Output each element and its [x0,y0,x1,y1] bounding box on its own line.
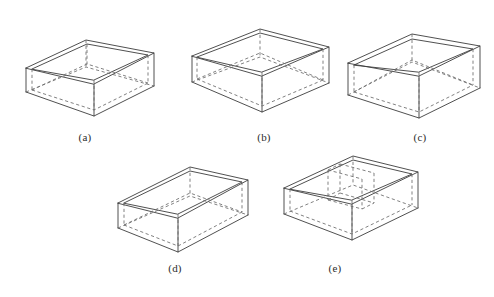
figure-label-c: (c) [400,131,440,143]
box-a-outer-rim [26,40,154,84]
box-c-outer-rim [348,34,480,76]
box-e-divider1-depth-top [328,170,362,179]
box-e-bottom-front [284,208,418,240]
figure-label-a: (a) [65,131,105,143]
figure-label-b: (b) [244,131,284,143]
box-diagrams-svg [0,0,494,297]
box-c-inner-floor-back [354,60,473,92]
figure-label-d: (d) [155,262,195,274]
box-e-divider1-far-bottom [362,203,374,209]
box-e-divider1-depth-top2 [340,164,374,173]
box-c-bottom-front [348,88,480,118]
figure-label-e: (e) [315,262,355,274]
box-a-inner-rim [32,44,148,80]
box-b-outer-rim [192,29,329,76]
box-a-inner-floor-back [32,64,148,90]
box-figure-c [348,34,480,118]
figure-panel: (a) (b) (c) (d) (e) [0,0,494,297]
box-figure-a [26,40,154,116]
box-c-inner-rim [354,39,473,72]
box-figure-d [118,167,248,252]
box-figure-b [192,29,329,112]
box-a-bottom-front [26,86,154,116]
box-figure-e [284,156,418,240]
box-d-bottom-front [118,215,248,252]
box-c-inner-floor-front [354,85,473,112]
box-a-inner-floor-front [32,83,148,110]
box-b-bottom-front [192,82,329,112]
